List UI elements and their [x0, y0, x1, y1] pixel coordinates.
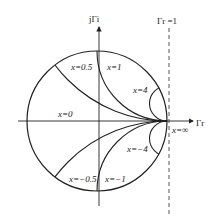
curve-x-1 [97, 0, 212, 121]
label-x-0.5: x=0.5 [70, 62, 93, 72]
label-x-neg0.5: x=−0.5 [68, 174, 97, 184]
label-boundary: Γr =1 [157, 16, 177, 26]
label-real-axis: Γr [196, 118, 204, 128]
curve-x-neg1 [97, 121, 212, 222]
label-x-0: x=0 [57, 109, 73, 119]
label-x-neg4: x=−4 [126, 144, 148, 154]
label-x-1: x=1 [106, 62, 122, 72]
label-x-4: x=4 [132, 85, 148, 95]
label-x-neg1: x=−1 [104, 174, 126, 184]
smith-chart-diagram: jΓi Γr =1 Γr x=0 x=0.5 x=1 x=4 x=−0.5 x=… [0, 0, 212, 222]
label-x-inf: x=∞ [171, 125, 188, 135]
curve-x-neg0.5 [27, 121, 212, 222]
label-imag-axis: jΓi [88, 14, 100, 24]
